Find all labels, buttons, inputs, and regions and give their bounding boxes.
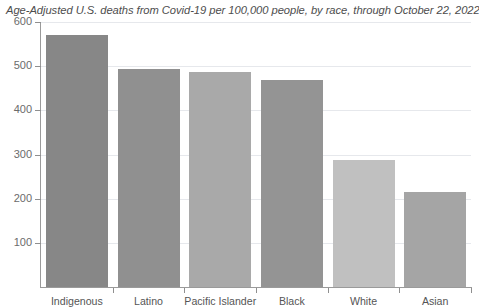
bar [46,35,108,287]
bar [189,72,251,287]
x-tick-mark [471,288,472,293]
x-tick-mark [256,288,257,293]
x-tick-label: Black [256,295,328,307]
y-tick-label: 600 [0,16,32,27]
bar [261,80,323,287]
x-tick-mark [399,288,400,293]
x-tick-label: Indigenous [41,295,113,307]
y-tick-label: 200 [0,193,32,204]
chart-title: Age-Adjusted U.S. deaths from Covid-19 p… [6,3,476,17]
bar [333,160,395,287]
x-tick-label: Pacific Islander [184,295,256,307]
y-tick-label: 300 [0,149,32,160]
y-tick-label: 100 [0,237,32,248]
y-tick-label: 400 [0,104,32,115]
y-tick-label: 500 [0,60,32,71]
bar [404,192,466,287]
bar-chart: Age-Adjusted U.S. deaths from Covid-19 p… [0,0,479,307]
x-tick-label: Latino [113,295,185,307]
x-tick-mark [328,288,329,293]
bar [118,69,180,287]
x-tick-mark [184,288,185,293]
x-tick-mark [113,288,114,293]
x-tick-label: Asian [399,295,471,307]
bars-layer [41,22,472,287]
x-tick-label: White [328,295,400,307]
